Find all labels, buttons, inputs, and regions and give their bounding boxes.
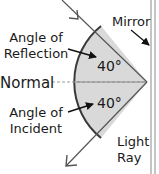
angle-reflection-value: 40° [97,58,122,74]
incident-label-line1: Angle of [9,105,63,120]
mirror-label: Mirror [112,14,151,29]
incident-label-line2: Incident [10,121,62,136]
reflection-label-line2: Reflection [4,46,69,61]
angle-incident-value: 40° [97,95,122,111]
normal-label: Normal [0,74,54,92]
mirror-pointer-arrow [131,30,149,45]
light-ray-label-line1: Light [117,134,149,149]
reflection-diagram: Mirror Angle of Reflection Normal 40° 40… [0,0,159,174]
reflection-label-line1: Angle of [9,30,63,45]
light-ray-label-line2: Ray [117,150,142,165]
